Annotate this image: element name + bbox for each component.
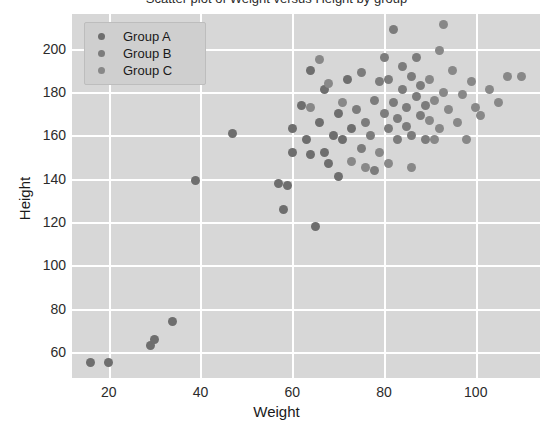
scatter-chart-figure: Scatter plot of Weight versus Height by … <box>0 0 553 435</box>
legend-marker-icon <box>98 33 105 40</box>
x-tick-label: 80 <box>354 384 414 400</box>
y-tick-label: 100 <box>14 257 66 273</box>
legend-label: Group C <box>123 63 172 78</box>
legend-label: Group A <box>123 29 171 44</box>
x-tick-label: 60 <box>262 384 322 400</box>
x-tick-label: 40 <box>170 384 230 400</box>
y-tick-label: 200 <box>14 41 66 57</box>
legend: Group AGroup BGroup C <box>84 22 206 85</box>
y-tick-label: 80 <box>14 301 66 317</box>
y-axis-label: Height <box>16 139 33 259</box>
legend-marker-icon <box>98 50 105 57</box>
legend-item[interactable]: Group B <box>91 45 199 62</box>
legend-item[interactable]: Group C <box>91 62 199 79</box>
x-tick-label: 100 <box>446 384 506 400</box>
x-tick-label: 20 <box>79 384 139 400</box>
legend-label: Group B <box>123 46 171 61</box>
legend-marker-icon <box>98 67 105 74</box>
y-tick-label: 60 <box>14 344 66 360</box>
x-axis-label: Weight <box>0 403 553 420</box>
legend-item[interactable]: Group A <box>91 28 199 45</box>
y-tick-label: 180 <box>14 84 66 100</box>
y-axis-tick-labels: 6080100120140160180200 <box>0 0 553 435</box>
